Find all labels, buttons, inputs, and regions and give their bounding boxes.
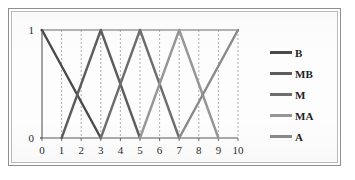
legend-item-a[interactable]: A [270,126,340,147]
legend-item-b[interactable]: B [270,42,340,63]
legend-label-b: B [295,47,302,59]
series-line-b [42,30,101,138]
legend-swatch-ma [270,114,292,117]
legend-label-mb: MB [295,68,313,80]
legend-item-ma[interactable]: MA [270,105,340,126]
legend-swatch-mb [270,72,292,75]
legend-swatch-a [270,135,292,138]
legend-swatch-m [270,93,292,96]
x-tick-label-6: 6 [157,145,163,156]
figure-frame-inner: 012345678910 01 BMBMMAA [11,11,338,163]
x-tick-label-3: 3 [98,145,104,156]
legend-item-mb[interactable]: MB [270,63,340,84]
legend-label-m: M [295,89,305,101]
x-tick-label-1: 1 [59,145,65,156]
legend-label-ma: MA [295,110,314,122]
x-tick-label-7: 7 [176,145,182,156]
membership-function-plot [40,26,240,148]
x-tick-label-9: 9 [216,145,222,156]
x-tick-label-10: 10 [233,145,244,156]
figure-frame: 012345678910 01 BMBMMAA [8,8,341,166]
legend-item-m[interactable]: M [270,84,340,105]
plot-area [40,26,240,148]
x-tick-label-2: 2 [78,145,84,156]
y-tick-label-0: 0 [20,133,34,144]
x-tick-label-8: 8 [196,145,202,156]
x-tick-label-5: 5 [137,145,143,156]
legend-label-a: A [295,131,303,143]
figure-body: 012345678910 01 BMBMMAA [12,12,337,162]
x-tick-label-0: 0 [39,145,45,156]
legend-swatch-b [270,51,292,54]
chart-legend: BMBMMAA [270,42,340,147]
y-tick-label-1: 1 [20,25,34,36]
series-line-a [179,30,238,138]
x-tick-label-4: 4 [118,145,124,156]
